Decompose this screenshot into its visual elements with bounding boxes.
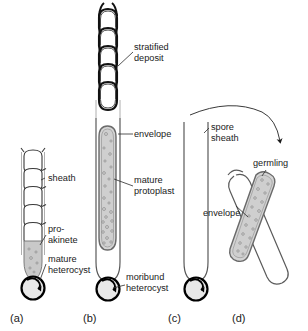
vegetative-cells-a [21,148,46,244]
moribund-heterocyst-c [185,278,208,301]
empty-spore-sheath-c [184,122,208,281]
mature-protoplast-b [99,126,116,250]
label-pro-akinete: pro- akinete [48,224,78,245]
label-mature-protoplast: mature protoplast [134,175,175,196]
leader-mature-protoplast [114,179,133,186]
label-envelope-d: envelope [203,208,240,218]
label-germling: germling [253,158,288,168]
label-spore-sheath: spore sheath [211,122,239,143]
figure-akinete-development: stratified deposit envelope mature proto… [0,0,308,331]
label-envelope-b: envelope [134,129,171,139]
pro-akinete-a [24,241,42,278]
panel-label-b: (b) [83,312,96,324]
label-sheath: sheath [48,173,76,183]
labels-layer: stratified deposit envelope mature proto… [48,42,288,293]
panel-letters: (a) (b) (c) (d) [10,312,245,324]
label-stratified-deposit: stratified deposit [134,42,171,63]
diagram-canvas: stratified deposit envelope mature proto… [0,0,308,331]
label-mature-heterocyst: mature heterocyst [48,254,91,275]
panel-d [228,170,288,284]
panel-label-c: (c) [168,312,181,324]
panel-a [21,148,46,300]
panel-b [96,3,133,301]
panel-label-a: (a) [10,312,23,324]
moribund-heterocyst-b [97,278,120,301]
label-moribund-heterocyst: moribund heterocyst [126,272,169,293]
mature-heterocyst-a [22,277,45,300]
stratified-deposit-b [99,3,117,110]
leader-stratified-deposit [118,52,133,66]
panel-label-d: (d) [232,312,245,324]
